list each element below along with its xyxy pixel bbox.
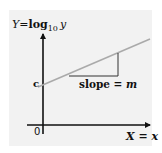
x-axis-label: X = x <box>125 130 158 143</box>
origin-label: 0 <box>34 126 40 137</box>
slope-label: slope = m <box>79 78 137 90</box>
intercept-label: c <box>33 78 39 89</box>
log-linear-diagram: Y=log10y c slope = m 0 X = x <box>0 0 162 153</box>
y-axis-label: Y=log10y <box>12 18 67 33</box>
